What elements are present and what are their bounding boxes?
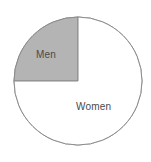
pie-chart-graphic	[0, 0, 151, 162]
pie-slice-label-women: Women	[76, 101, 111, 112]
pie-slice-label-men: Men	[36, 49, 56, 60]
pie-chart-figure: Men Women	[0, 0, 151, 162]
